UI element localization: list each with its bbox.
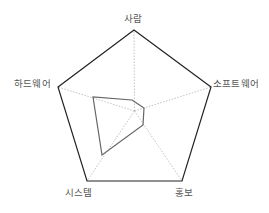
spokes <box>58 30 211 181</box>
axis-label-right: 소프트웨어 <box>213 79 259 89</box>
radar-chart <box>0 0 269 213</box>
axis-label-left: 하드웨어 <box>14 79 51 89</box>
spoke-right <box>135 87 212 111</box>
axis-label-bottom-left: 시스템 <box>65 188 93 198</box>
spoke-top <box>134 30 135 111</box>
spoke-bottom-right <box>135 111 183 181</box>
axis-label-bottom-right: 홍보 <box>175 188 193 198</box>
axis-label-top: 사람 <box>124 14 142 24</box>
data-series-polygon <box>93 97 144 155</box>
spoke-bottom-left <box>87 111 135 181</box>
